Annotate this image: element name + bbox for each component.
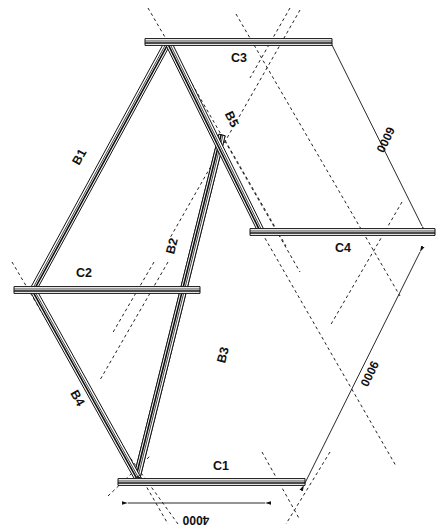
member-label-b5: B5 xyxy=(222,109,242,130)
construction-line xyxy=(262,233,396,466)
dimension-line-dim-6000 xyxy=(332,45,422,226)
dimension-line-dim-9000 xyxy=(304,252,420,485)
dimension-label-dim-9000: 9000 xyxy=(357,359,381,389)
beam-member-b3 xyxy=(134,134,225,478)
engineering-drawing-canvas: B1B2B3B4B5C1C2C3C4 400060009000 xyxy=(0,0,444,529)
member-label-c3: C3 xyxy=(231,51,247,65)
beam-member-b5 xyxy=(165,41,265,235)
column-member-c1 xyxy=(118,479,305,486)
beam-members-group xyxy=(30,40,265,478)
member-label-b3: B3 xyxy=(214,346,231,365)
dimension-label-dim-4000: 4000 xyxy=(182,513,209,527)
member-label-b1: B1 xyxy=(70,147,90,168)
construction-line xyxy=(100,262,168,380)
beam-member-b1 xyxy=(30,40,171,291)
construction-line xyxy=(330,202,402,326)
construction-line xyxy=(112,262,154,334)
member-label-b2: B2 xyxy=(163,237,180,256)
member-label-c1: C1 xyxy=(213,459,229,473)
column-member-c4 xyxy=(250,229,435,236)
dimension-lines-group xyxy=(128,45,422,503)
column-members-group xyxy=(14,39,435,486)
frame-diagram: B1B2B3B4B5C1C2C3C4 400060009000 xyxy=(0,0,444,529)
construction-line xyxy=(286,452,330,524)
column-member-c2 xyxy=(14,287,200,294)
column-member-c3 xyxy=(145,39,332,46)
member-labels-group: B1B2B3B4B5C1C2C3C4 xyxy=(68,51,352,473)
beam-member-b4 xyxy=(30,288,140,478)
dimension-label-dim-6000: 6000 xyxy=(373,125,397,155)
construction-line xyxy=(126,452,178,524)
construction-line xyxy=(236,14,400,296)
member-label-c4: C4 xyxy=(335,241,351,255)
member-label-c2: C2 xyxy=(76,266,92,280)
construction-lines-group xyxy=(12,8,402,524)
member-label-b4: B4 xyxy=(68,388,88,409)
